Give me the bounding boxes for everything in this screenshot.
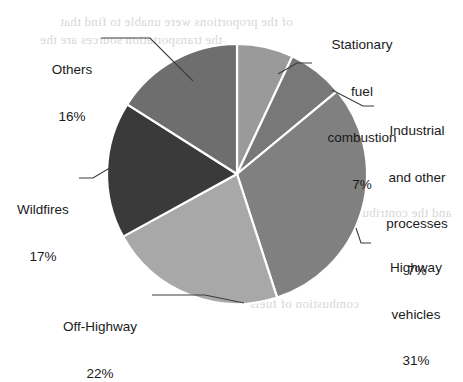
pie-label-others-line1: Others xyxy=(42,62,102,78)
pie-label-off-highway: Off-Highway 22% xyxy=(48,288,152,382)
pie-label-offhighway-percent: 22% xyxy=(48,366,152,382)
pie-label-others: Others 16% xyxy=(42,31,102,155)
pie-label-highway-vehicles: Highway vehicles 31% xyxy=(369,229,463,382)
pie-label-wildfires: Wildfires 17% xyxy=(6,171,80,295)
pie-label-highway-line2: vehicles xyxy=(369,307,463,323)
pie-label-wildfires-percent: 17% xyxy=(6,249,80,265)
pie-label-others-percent: 16% xyxy=(42,109,102,125)
pie-label-industrial-line2: and other xyxy=(371,170,463,186)
pie-label-stationary-line1: Stationary xyxy=(297,37,427,53)
pie-label-wildfires-line1: Wildfires xyxy=(6,202,80,218)
pie-label-highway-line1: Highway xyxy=(369,260,463,276)
pie-label-offhighway-line1: Off-Highway xyxy=(48,319,152,335)
pie-label-industrial-line1: Industrial xyxy=(371,123,463,139)
pie-label-highway-percent: 31% xyxy=(369,353,463,369)
